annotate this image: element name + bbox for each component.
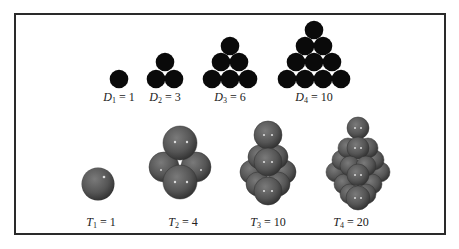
sphere-packing-t2 [149,126,211,199]
packing-illustration [0,0,459,249]
label-t2: T2 = 4 [168,215,197,230]
label-t3: T3 = 10 [250,215,285,230]
disk-packing-d3 [203,37,258,89]
disk-packing-d2 [147,53,184,89]
label-d1: D1 = 1 [103,90,134,105]
sphere-packing-t4 [326,117,390,210]
label-d2: D2 = 3 [149,90,180,105]
disk-packing-d1 [110,70,129,89]
label-d4: D4 = 10 [295,90,332,105]
sphere-packing-t1 [82,168,115,201]
disk-packing-d4 [278,21,351,89]
label-t4: T4 = 20 [333,215,368,230]
label-t1: T1 = 1 [86,215,115,230]
label-d3: D3 = 6 [214,90,245,105]
sphere-packing-t3 [240,121,296,205]
